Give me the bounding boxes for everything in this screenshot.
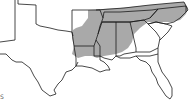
range-map <box>0 0 192 108</box>
texas-border <box>0 0 78 96</box>
oklahoma-border <box>18 0 73 36</box>
caption-fragment: S <box>0 94 4 100</box>
florida-border <box>116 48 172 99</box>
